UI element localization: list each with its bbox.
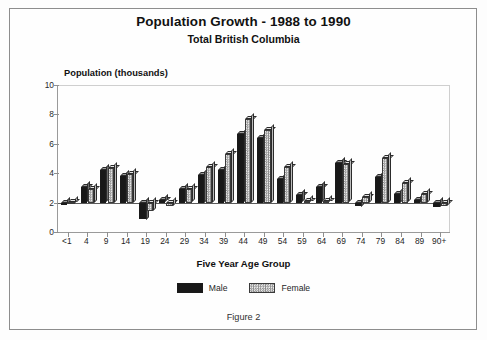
x-axis-labels: <1491419242934394449545964697479848990+ [57, 236, 449, 252]
figure-caption: Figure 2 [0, 312, 487, 322]
bar-facet [271, 124, 274, 203]
x-tick-label: 24 [160, 236, 169, 246]
bar-female [206, 167, 212, 203]
bar-facet [343, 164, 349, 202]
bar-facet [329, 195, 332, 202]
bar-male [139, 203, 145, 220]
x-tick-label: 89 [415, 236, 424, 246]
bar-male [296, 195, 302, 202]
legend-swatch-male-icon [177, 283, 203, 293]
bar-facet [296, 195, 302, 202]
bar-female [264, 130, 270, 203]
bar-male [316, 187, 322, 202]
bar-facet [237, 134, 243, 202]
bar-female [284, 167, 290, 203]
bar-female [147, 203, 153, 211]
bar-facet [284, 167, 290, 203]
bar-male [394, 194, 400, 203]
bar-female [127, 174, 133, 203]
legend-swatch-female-icon [249, 283, 275, 293]
bar-facet [120, 176, 126, 202]
x-tick-label: 84 [395, 236, 404, 246]
bar-female [108, 168, 114, 203]
bar-female [88, 189, 94, 203]
y-tick-label: 2 [36, 198, 54, 208]
bar-male [218, 170, 224, 202]
bar-facet [402, 183, 408, 202]
bar-facet [81, 187, 87, 202]
bars-layer [58, 85, 450, 232]
bar-facet [173, 197, 176, 206]
bar-facet [225, 154, 231, 203]
bar-facet [159, 200, 165, 202]
bar-facet [382, 158, 388, 203]
x-tick-label: 34 [199, 236, 208, 246]
bar-female [343, 164, 349, 202]
y-tick-label: 8 [36, 109, 54, 119]
bar-chart: Population (thousands) 0246810 <14914192… [0, 0, 487, 340]
bar-facet [68, 202, 74, 204]
bar-facet [212, 161, 215, 203]
bar-facet [245, 119, 251, 203]
bar-female [186, 189, 192, 202]
legend-item-female: Female [249, 283, 310, 293]
bar-facet [139, 203, 145, 220]
x-tick-label: 4 [84, 236, 89, 246]
bar-female [245, 119, 251, 203]
bar-facet [186, 189, 192, 202]
bar-facet [335, 163, 341, 203]
bar-female [225, 154, 231, 203]
bar-facet [114, 162, 117, 203]
x-tick-label: 19 [141, 236, 150, 246]
bar-facet [394, 194, 400, 203]
legend-item-male: Male [177, 283, 228, 293]
bar-female [323, 201, 329, 202]
bar-facet [108, 168, 114, 203]
bar-facet [133, 168, 136, 203]
bar-male [375, 177, 381, 203]
x-tick-label: <1 [62, 236, 72, 246]
x-tick-label: 14 [121, 236, 130, 246]
bar-facet [192, 183, 195, 202]
bar-male [61, 203, 67, 204]
chart-legend: Male Female [0, 283, 487, 293]
bar-facet [100, 170, 106, 202]
bar-facet [447, 197, 450, 206]
x-tick-label: 59 [297, 236, 306, 246]
bar-male [355, 203, 361, 207]
x-axis-title: Five Year Age Group [0, 258, 487, 269]
bar-facet [257, 138, 263, 203]
x-tick-label: 54 [278, 236, 287, 246]
bar-facet [218, 170, 224, 202]
bar-facet [166, 203, 172, 206]
bar-facet [349, 158, 352, 202]
bar-facet [414, 200, 420, 203]
x-tick-label: 79 [376, 236, 385, 246]
bar-facet [251, 113, 254, 203]
y-tick-label: 6 [36, 139, 54, 149]
x-tick-label: 49 [258, 236, 267, 246]
bar-female [166, 203, 172, 206]
bar-facet [369, 191, 372, 203]
plot-area: 0246810 [57, 85, 450, 233]
y-tick-label: 10 [36, 80, 54, 90]
bar-facet [277, 179, 283, 203]
bar-facet [206, 167, 212, 203]
y-tick-label: 0 [36, 227, 54, 237]
bar-female [421, 194, 427, 203]
bar-facet [427, 188, 430, 203]
bar-facet [316, 187, 322, 202]
bar-facet [323, 201, 329, 203]
x-tick-label: 64 [317, 236, 326, 246]
bar-female [68, 202, 74, 203]
bar-facet [147, 203, 153, 211]
bar-facet [375, 177, 381, 203]
bar-male [335, 163, 341, 203]
bar-male [277, 179, 283, 203]
x-tick-label: 69 [337, 236, 346, 246]
x-tick-label: 74 [356, 236, 365, 246]
bar-facet [264, 130, 270, 203]
bar-facet [198, 175, 204, 203]
bar-facet [388, 152, 391, 203]
x-tick-label: 44 [239, 236, 248, 246]
